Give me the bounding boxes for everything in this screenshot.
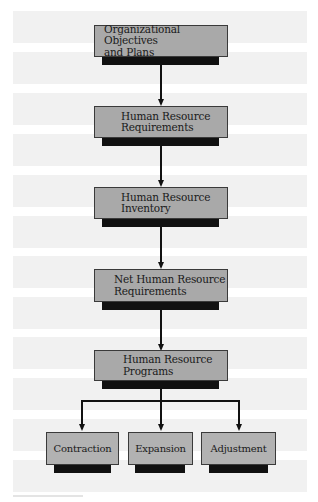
arrow-down-icon [158, 262, 164, 269]
node-shadow [102, 301, 219, 310]
connector-line [238, 400, 240, 424]
connector-line [160, 310, 162, 344]
node-contraction: Contraction [46, 432, 119, 465]
caption-fragment [13, 495, 83, 497]
node-label: Adjustment [210, 443, 266, 455]
arrow-down-icon [158, 180, 164, 187]
arrow-down-icon [158, 99, 164, 106]
node-label-line: Programs [123, 366, 227, 378]
node-label-line: Human Resource [123, 354, 227, 366]
node-adjustment: Adjustment [201, 432, 276, 465]
node-net-hr-requirements: Net Human Resource Requirements [94, 269, 228, 302]
connector-line [81, 400, 83, 424]
node-label-line: Inventory [121, 203, 227, 215]
node-label-line: Organizational Objectives [104, 24, 227, 47]
node-label: Expansion [135, 443, 186, 455]
node-shadow [102, 380, 219, 389]
connector-line [160, 227, 162, 262]
connector-line [160, 146, 162, 180]
node-label-line: Requirements [121, 122, 227, 134]
node-shadow [135, 464, 185, 473]
arrow-down-icon [236, 424, 242, 431]
node-shadow [209, 464, 268, 473]
node-shadow [102, 137, 219, 146]
node-label: Contraction [54, 443, 112, 455]
node-label-line: Net Human Resource [114, 274, 227, 286]
arrow-down-icon [158, 424, 164, 431]
branch-line [81, 400, 240, 402]
node-hr-inventory: Human Resource Inventory [94, 187, 228, 219]
node-label-line: Requirements [114, 286, 227, 298]
arrow-down-icon [79, 424, 85, 431]
node-shadow [102, 218, 219, 227]
node-hr-requirements: Human Resource Requirements [94, 106, 228, 138]
node-label-line: and Plans [104, 47, 227, 59]
node-expansion: Expansion [128, 432, 193, 465]
connector-line [160, 389, 162, 424]
connector-line [160, 65, 162, 99]
node-hr-programs: Human Resource Programs [94, 350, 228, 381]
node-shadow [54, 464, 111, 473]
node-organizational-objectives: Organizational Objectives and Plans [94, 25, 228, 57]
